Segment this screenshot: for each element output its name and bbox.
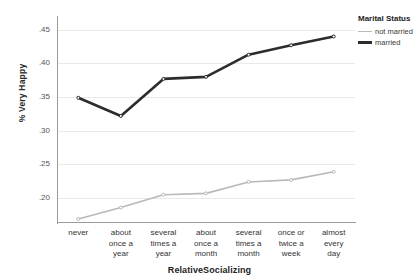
y-tick-label: .30	[24, 126, 50, 135]
legend-item[interactable]: married	[358, 38, 419, 47]
legend: Marital Status not marriedmarried	[358, 14, 419, 49]
cropped-title-strip	[0, 0, 419, 7]
data-point	[77, 217, 80, 220]
legend-item-label: not married	[375, 27, 413, 36]
plot-area	[57, 21, 355, 223]
y-tick-label: .35	[24, 92, 50, 101]
data-point	[119, 206, 122, 209]
legend-swatch-icon	[358, 41, 372, 44]
series-line	[78, 172, 333, 219]
data-point	[77, 96, 80, 99]
y-tick-label: .40	[24, 58, 50, 67]
data-point	[119, 114, 122, 117]
line-chart: % Very Happy .20.25.30.35.40.45 neverabo…	[0, 0, 419, 278]
data-point	[162, 77, 165, 80]
legend-entries: not marriedmarried	[358, 27, 419, 47]
y-tick-label: .20	[24, 193, 50, 202]
data-point	[205, 75, 208, 78]
data-point	[290, 44, 293, 47]
data-point	[205, 192, 208, 195]
series-layer	[57, 21, 355, 223]
data-point	[162, 193, 165, 196]
legend-item[interactable]: not married	[358, 27, 419, 36]
data-point	[332, 170, 335, 173]
data-point	[247, 53, 250, 56]
data-point	[247, 180, 250, 183]
x-axis-title: RelativeSocializing	[0, 265, 419, 275]
x-tick-label: almosteveryday	[308, 228, 360, 260]
legend-item-label: married	[375, 38, 400, 47]
y-tick-label: .25	[24, 159, 50, 168]
legend-title: Marital Status	[358, 14, 419, 23]
legend-swatch-icon	[358, 31, 372, 33]
data-point	[290, 178, 293, 181]
y-tick-label: .45	[24, 25, 50, 34]
data-point	[332, 35, 335, 38]
